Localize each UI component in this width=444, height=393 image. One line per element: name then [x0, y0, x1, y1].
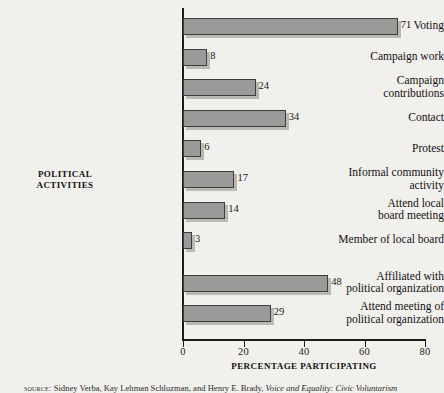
x-axis-tick-label: 0: [180, 346, 185, 357]
y-axis-title: POLITICAL ACTIVITIES: [10, 169, 120, 191]
bar: [183, 110, 286, 127]
source-kicker: source:: [24, 383, 51, 393]
bar: [183, 202, 225, 219]
x-axis-tick-label: 40: [299, 346, 310, 357]
bar: [183, 305, 271, 322]
x-axis-tick-label: 20: [238, 346, 249, 357]
bar-value-label: 24: [259, 80, 270, 91]
x-axis-tick-label: 60: [359, 346, 370, 357]
bar-value-label: 3: [195, 233, 200, 244]
bar-row: 29: [183, 305, 311, 322]
bar: [183, 49, 207, 66]
x-axis-tick-label: 80: [420, 346, 431, 357]
bar-row: 3: [183, 232, 232, 249]
bar-row: 48: [183, 275, 368, 292]
bar: [183, 140, 201, 157]
bar-row: 34: [183, 110, 326, 127]
category-label: Campaign work: [272, 50, 444, 63]
bar: [183, 275, 328, 292]
bar-row: 6: [183, 140, 241, 157]
category-label: Member of local board: [272, 233, 444, 246]
bar: [183, 79, 256, 96]
category-label: Protest: [272, 142, 444, 155]
bar-chart-figure: 020406080 VotingCampaign workCampaign co…: [0, 0, 444, 393]
source-note: source: Sidney Verba, Kay Lehman Schlozm…: [24, 383, 444, 393]
bar-value-label: 29: [274, 306, 285, 317]
category-label: Attend local board meeting: [272, 197, 444, 222]
category-label: Campaign contributions: [272, 74, 444, 99]
bar-row: 17: [183, 171, 274, 188]
category-label: Informal community activity: [272, 166, 444, 191]
bar-value-label: 34: [289, 111, 300, 122]
source-authors: Sidney Verba, Kay Lehman Schlozman, and …: [54, 383, 264, 393]
x-axis-title: PERCENTAGE PARTICIPATING: [182, 361, 426, 371]
bar-row: 24: [183, 79, 296, 96]
bar-value-label: 71: [401, 19, 412, 30]
bar-row: 71: [183, 18, 438, 35]
bar: [183, 171, 234, 188]
bar-value-label: 48: [331, 276, 342, 287]
bar-value-label: 8: [210, 50, 215, 61]
source-title: Voice and Equality: Civic Voluntarism: [266, 383, 398, 393]
bar-value-label: 17: [237, 172, 248, 183]
bar-row: 14: [183, 202, 265, 219]
bar-value-label: 14: [228, 203, 239, 214]
bar-value-label: 6: [204, 141, 209, 152]
bar-row: 8: [183, 49, 247, 66]
bar: [183, 18, 398, 35]
bar: [183, 232, 192, 249]
